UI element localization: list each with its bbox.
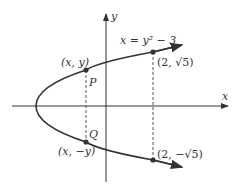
lower-endpoint-label: (2, −√5) (157, 148, 203, 161)
x-axis-label: x (222, 90, 229, 103)
point-upper-endpoint (150, 49, 155, 54)
y-axis-label: y (110, 10, 118, 23)
point-p-name-label: P (88, 76, 97, 89)
upper-endpoint-label: (2, √5) (157, 56, 194, 69)
point-lower-endpoint (150, 157, 155, 162)
point-q (83, 139, 88, 144)
point-q-coord-label: (x, −y) (58, 145, 95, 158)
equation-label: x = y² − 3 (120, 34, 176, 47)
parabola-diagram: y x x = y² − 3 (x, y) P Q (x, −y) (2, √5… (0, 0, 240, 194)
point-q-name-label: Q (89, 128, 98, 141)
point-p-coord-label: (x, y) (61, 56, 89, 69)
lower-arrow (153, 160, 182, 167)
